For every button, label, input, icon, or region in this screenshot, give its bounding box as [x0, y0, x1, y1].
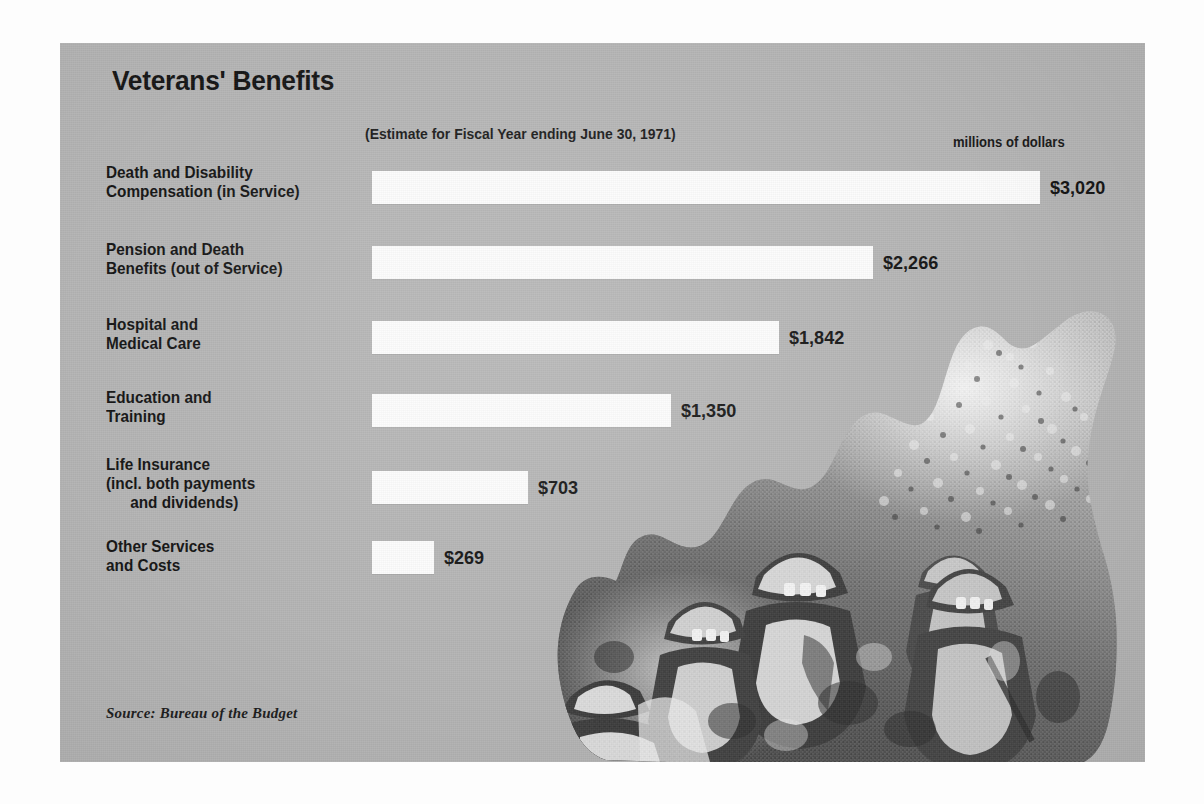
bar: [372, 246, 873, 279]
bar: [372, 471, 528, 504]
bar-category-label-line: Life Insurance: [106, 455, 255, 474]
bar: [372, 541, 434, 574]
bar-value-label: $1,842: [789, 327, 844, 349]
bar-value-label: $703: [538, 477, 578, 499]
source-note: Source: Bureau of the Budget: [106, 705, 297, 722]
bar-value-label: $1,350: [681, 400, 736, 422]
bar-category-label-line: Medical Care: [106, 334, 201, 353]
poster-canvas: Veterans' Benefits (Estimate for Fiscal …: [0, 0, 1204, 804]
bar-category-label: Pension and DeathBenefits (out of Servic…: [106, 240, 283, 278]
bar-value-label: $269: [444, 547, 484, 569]
bar-category-label-line: Compensation (in Service): [106, 182, 300, 201]
bar-category-label-line: Training: [106, 407, 212, 426]
bar-category-label-line: Other Services: [106, 537, 214, 556]
bar-value-label: $2,266: [883, 252, 938, 274]
bar-category-label-line: Hospital and: [106, 315, 201, 334]
bar-category-label: Hospital andMedical Care: [106, 315, 201, 353]
bar-category-label-line: and dividends): [106, 493, 255, 512]
bar-category-label-line: Education and: [106, 388, 212, 407]
bar: [372, 394, 671, 427]
chart-card: Veterans' Benefits (Estimate for Fiscal …: [60, 43, 1145, 762]
bar-category-label: Education andTraining: [106, 388, 212, 426]
bar-value-label: $3,020: [1050, 177, 1105, 199]
bar-category-label-line: and Costs: [106, 556, 214, 575]
bar-category-label-line: Death and Disability: [106, 163, 300, 182]
bar-category-label-line: Pension and Death: [106, 240, 283, 259]
bar-category-label: Other Servicesand Costs: [106, 537, 214, 575]
bar-chart: Death and DisabilityCompensation (in Ser…: [60, 43, 1145, 762]
bar: [372, 171, 1040, 204]
bar-category-label-line: (incl. both payments: [106, 474, 255, 493]
bar-category-label: Death and DisabilityCompensation (in Ser…: [106, 163, 300, 201]
bar-category-label: Life Insurance(incl. both paymentsand di…: [106, 455, 255, 512]
bar: [372, 321, 779, 354]
bar-category-label-line: Benefits (out of Service): [106, 259, 283, 278]
